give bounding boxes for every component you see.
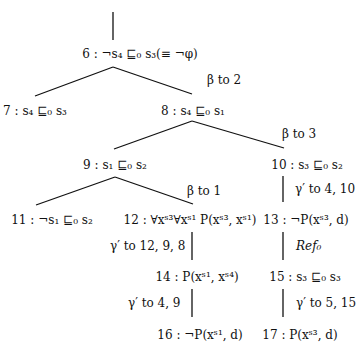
rule-label: β to 3	[282, 127, 316, 141]
rule-label: γ′ to 12, 9, 8	[110, 239, 185, 253]
tree-edge	[35, 67, 113, 96]
tree-edge	[192, 121, 284, 148]
tree-node-9: 9 : s₁ ⊑₀ s₂	[83, 158, 147, 172]
rule-label: Ref₀	[296, 239, 321, 253]
tree-node-10: 10 : s₃ ⊑₀ s₂	[271, 158, 342, 172]
tree-edge	[114, 121, 192, 149]
tree-edge	[113, 67, 192, 94]
tree-node-7: 7 : s₄ ⊑₀ s₃	[3, 104, 67, 118]
tree-node-8: 8 : s₄ ⊑₀ s₁	[161, 104, 225, 118]
rule-label: β to 2	[207, 73, 241, 87]
tree-node-16: 16 : ¬P(xˢ¹, d)	[157, 328, 242, 342]
tree-node-17: 17 : P(xˢ³, d)	[262, 328, 337, 342]
tree-node-11: 11 : ¬s₁ ⊑₀ s₂	[11, 213, 93, 227]
tree-node-13: 13 : ¬P(xˢ³, d)	[263, 213, 348, 227]
tree-node-14: 14 : P(xˢ¹, xˢ⁴)	[155, 270, 238, 284]
tree-edge	[36, 177, 115, 205]
tree-edge	[115, 177, 193, 204]
rule-label: γ′ to 4, 10	[295, 182, 355, 196]
rule-label: γ′ to 5, 15	[296, 296, 356, 310]
tree-node-6: 6 : ¬s₄ ⊑₀ s₃(≡ ¬φ)	[82, 47, 198, 61]
tree-node-12: 12 : ∀xˢ³∀xˢ¹ P(xˢ³, xˢ¹)	[124, 213, 257, 227]
rule-label: γ′ to 4, 9	[128, 296, 180, 310]
tree-node-15: 15 : s₃ ⊑₀ s₃	[269, 270, 340, 284]
rule-label: β to 1	[187, 184, 221, 198]
